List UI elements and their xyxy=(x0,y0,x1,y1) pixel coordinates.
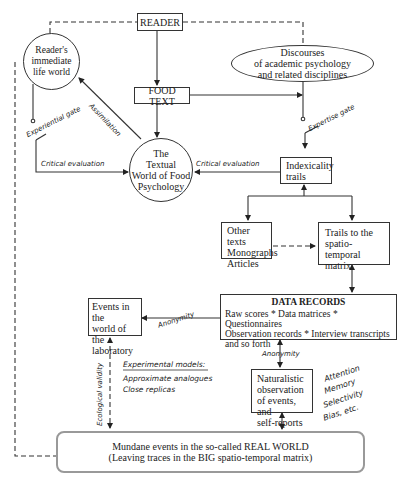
mundane-events-label: Mundane events in the so-called REAL WOR… xyxy=(109,441,313,463)
trails-matrix-box: Trails to the spatio-temporal matrix xyxy=(318,222,390,265)
events-lab-box: Events in the world of the laboratory xyxy=(88,298,142,336)
reader-box: READER xyxy=(137,13,183,31)
textual-world-circle: The Textual World of Food Psychology xyxy=(129,138,193,202)
indexicality-trails-label: Indexicality trails xyxy=(286,160,334,182)
life-world-circle: Reader's immediate life world xyxy=(23,33,80,90)
discourses-ellipse: Discourses of academic psychology and re… xyxy=(231,45,374,82)
discourses-label: Discourses of academic psychology and re… xyxy=(254,47,351,80)
naturalistic-box: Naturalistic observation of events, and … xyxy=(251,369,313,413)
critical-evaluation-left-label: Critical evaluation xyxy=(41,160,105,168)
anonymity-down-label: Anonymity xyxy=(262,350,300,358)
textual-world-label: The Textual World of Food Psychology xyxy=(132,148,191,192)
indexicality-trails-box: Indexicality trails xyxy=(280,157,332,184)
trails-matrix-label: Trails to the spatio-temporal matrix xyxy=(325,227,373,271)
life-world-label: Reader's immediate life world xyxy=(31,45,71,78)
experimental-models-title: Experimental models: xyxy=(123,360,205,369)
data-records-title: DATA RECORDS xyxy=(225,297,392,308)
data-records-box: DATA RECORDS Raw scores * Data matrices … xyxy=(220,294,397,340)
experimental-models-item: Close replicas xyxy=(123,385,175,394)
data-records-body: Raw scores * Data matrices * Questionnai… xyxy=(225,309,392,349)
other-texts-box: Other texts Monographs Articles xyxy=(221,222,272,259)
critical-evaluation-right-label: Critical evaluation xyxy=(196,160,260,168)
food-text-box: FOOD TEXT xyxy=(134,87,190,104)
reader-label: READER xyxy=(140,17,180,28)
naturalistic-label: Naturalistic observation of events, and … xyxy=(257,373,304,428)
mundane-events-box: Mundane events in the so-called REAL WOR… xyxy=(56,431,365,473)
food-text-label: FOOD TEXT xyxy=(135,85,189,107)
experimental-models-item: Approximate analogues xyxy=(123,374,212,383)
ecological-validity-label: Ecological validity xyxy=(96,363,104,426)
food-psychology-diagram: READER Reader's immediate life world Dis… xyxy=(0,0,400,488)
events-lab-label: Events in the world of the laboratory xyxy=(92,301,133,356)
